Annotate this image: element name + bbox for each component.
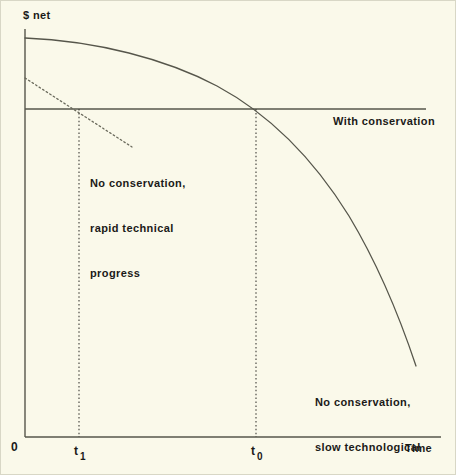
y-axis-label: $ net [23,8,51,23]
annotation-no-conservation-rapid: No conservation, rapid technical progres… [90,146,186,311]
x-tick-t0-subscript: 0 [257,451,263,462]
annotation-rapid-line-3: progress [90,266,186,281]
annotation-no-conservation-slow: No conservation, slow technological prog… [315,365,421,475]
x-tick-t0: t0 [251,441,261,459]
x-tick-t1: t1 [74,441,84,459]
x-tick-t1-subscript: 1 [80,451,86,462]
annotation-with-conservation: With conservation [333,114,435,129]
annotation-rapid-line-2: rapid technical [90,221,186,236]
annotation-slow-line-2: slow technological [315,440,421,455]
origin-label: 0 [11,440,18,455]
annotation-slow-line-1: No conservation, [315,395,421,410]
x-tick-t1-base: t [74,444,78,458]
series-curve-no-conservation-slow [25,38,416,366]
chart-container: $ net Time 0 t1 t0 With conservation No … [0,0,456,475]
x-tick-t0-base: t [251,444,255,458]
annotation-rapid-line-1: No conservation, [90,176,186,191]
